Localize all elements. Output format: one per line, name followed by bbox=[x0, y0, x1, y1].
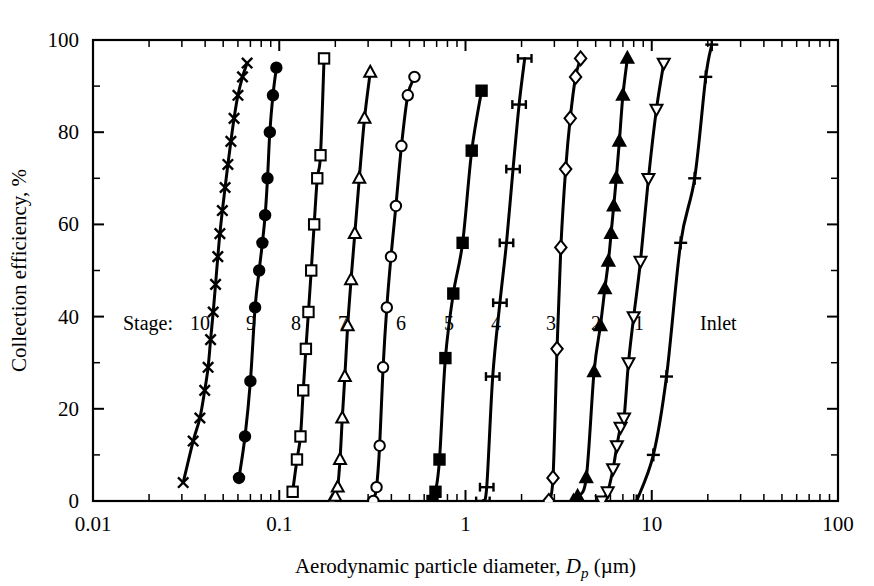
series-layer bbox=[178, 38, 718, 508]
marker-square bbox=[309, 219, 319, 229]
marker-triangle-up bbox=[621, 52, 633, 63]
marker-triangle-up bbox=[349, 227, 361, 238]
marker-triangle-up bbox=[359, 112, 371, 123]
x-axis-title-text: Aerodynamic particle diameter, bbox=[295, 554, 566, 578]
marker-circle bbox=[260, 210, 270, 220]
marker-circle bbox=[265, 127, 275, 137]
marker-square bbox=[434, 454, 444, 464]
marker-triangle-up bbox=[364, 66, 376, 77]
marker-triangle-down bbox=[607, 464, 619, 475]
marker-diamond bbox=[543, 494, 554, 508]
x-axis-title-units: (µm) bbox=[588, 554, 636, 578]
marker-circle bbox=[257, 238, 267, 248]
x-axis-title-symbol: D bbox=[565, 554, 581, 578]
marker-diamond bbox=[547, 471, 558, 485]
series-5 bbox=[427, 86, 486, 507]
marker-circle bbox=[262, 173, 272, 183]
marker-square bbox=[295, 431, 305, 441]
marker-circle bbox=[396, 141, 406, 151]
marker-triangle-up bbox=[353, 172, 365, 183]
y-tick-label: 60 bbox=[58, 212, 79, 236]
marker-triangle-up bbox=[580, 471, 592, 482]
series-line bbox=[549, 58, 581, 501]
marker-circle bbox=[378, 362, 388, 372]
marker-square bbox=[292, 454, 302, 464]
marker-triangle-up bbox=[339, 370, 351, 381]
marker-square bbox=[448, 288, 458, 298]
x-tick-label: 1 bbox=[460, 512, 471, 536]
marker-square bbox=[303, 307, 313, 317]
marker-triangle-up bbox=[613, 135, 625, 146]
marker-triangle-up bbox=[588, 365, 600, 376]
stage-annotation-9: 9 bbox=[246, 312, 256, 334]
marker-circle bbox=[245, 376, 255, 386]
series-4 bbox=[476, 54, 531, 505]
marker-triangle-down bbox=[623, 358, 635, 369]
series-6 bbox=[368, 72, 420, 507]
series-line bbox=[373, 77, 414, 501]
marker-diamond bbox=[551, 342, 562, 356]
marker-circle bbox=[391, 201, 401, 211]
marker-circle bbox=[271, 62, 281, 72]
marker-circle bbox=[374, 440, 384, 450]
marker-diamond bbox=[555, 240, 566, 254]
series-8 bbox=[287, 53, 329, 497]
series-10 bbox=[178, 58, 252, 488]
marker-triangle-down bbox=[650, 105, 662, 116]
marker-diamond bbox=[565, 111, 576, 125]
series-9 bbox=[234, 62, 282, 483]
stage-annotation-10: 10 bbox=[190, 312, 210, 334]
series-line bbox=[637, 45, 712, 501]
stage-annotation-stage: Stage: bbox=[123, 312, 173, 335]
marker-triangle-up bbox=[599, 282, 611, 293]
stage-annotation-7: 7 bbox=[338, 312, 348, 334]
marker-circle bbox=[403, 90, 413, 100]
marker-triangle-up bbox=[610, 172, 622, 183]
marker-triangle-down bbox=[635, 257, 647, 268]
series-7 bbox=[326, 66, 376, 506]
x-tick-label: 100 bbox=[822, 512, 854, 536]
y-tick-label: 20 bbox=[58, 397, 79, 421]
marker-circle bbox=[371, 482, 381, 492]
marker-square bbox=[476, 86, 486, 96]
series-2 bbox=[568, 52, 634, 505]
series-inlet bbox=[630, 38, 718, 507]
stage-annotation-1: 1 bbox=[634, 312, 644, 334]
marker-square bbox=[440, 353, 450, 363]
marker-triangle-up bbox=[332, 481, 344, 492]
collection-efficiency-chart: 0.010.1110100020406080100Collection effi… bbox=[0, 0, 874, 586]
marker-square bbox=[457, 238, 467, 248]
marker-triangle-up bbox=[345, 273, 357, 284]
marker-square bbox=[287, 487, 297, 497]
marker-square bbox=[306, 265, 316, 275]
marker-diamond bbox=[560, 162, 571, 176]
marker-circle bbox=[268, 90, 278, 100]
stage-annotation-6: 6 bbox=[396, 312, 406, 334]
x-tick-label: 0.01 bbox=[75, 512, 112, 536]
marker-triangle-up bbox=[605, 227, 617, 238]
marker-square bbox=[467, 145, 477, 155]
marker-circle bbox=[382, 302, 392, 312]
stage-annotation-4: 4 bbox=[491, 312, 501, 334]
marker-triangle-up bbox=[336, 412, 348, 423]
stage-annotation-inlet: Inlet bbox=[700, 312, 737, 334]
x-axis-title: Aerodynamic particle diameter, Dp (µm) bbox=[295, 554, 636, 581]
marker-triangle-up bbox=[334, 453, 346, 464]
marker-square bbox=[319, 53, 329, 63]
series-line bbox=[332, 72, 370, 501]
series-line bbox=[602, 63, 664, 501]
marker-circle bbox=[368, 496, 378, 506]
marker-triangle-up bbox=[617, 89, 629, 100]
marker-circle bbox=[234, 473, 244, 483]
series-line bbox=[483, 58, 525, 501]
stage-annotation-8: 8 bbox=[291, 312, 301, 334]
marker-square bbox=[301, 344, 311, 354]
x-tick-label: 10 bbox=[641, 512, 662, 536]
marker-triangle-down bbox=[642, 174, 654, 185]
y-axis-title: Collection efficiency, % bbox=[7, 169, 31, 372]
plot-frame bbox=[93, 40, 838, 501]
marker-diamond bbox=[570, 70, 581, 84]
marker-square bbox=[430, 487, 440, 497]
chart-figure: 0.010.1110100020406080100Collection effi… bbox=[0, 0, 874, 586]
marker-circle bbox=[254, 265, 264, 275]
